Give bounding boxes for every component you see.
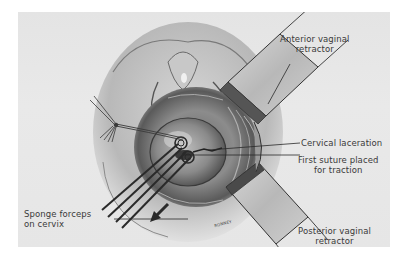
label-first-suture: First suture placed for traction bbox=[298, 155, 379, 175]
label-line: for traction bbox=[298, 165, 379, 175]
label-line: Cervical laceration bbox=[301, 138, 382, 148]
label-sponge-forceps: Sponge forceps on cervix bbox=[24, 209, 91, 229]
label-line: Sponge forceps bbox=[24, 209, 91, 219]
label-line: retractor bbox=[280, 44, 350, 54]
label-line: Anterior vaginal bbox=[280, 34, 350, 44]
label-cervical-laceration: Cervical laceration bbox=[301, 138, 382, 148]
label-line: Posterior vaginal bbox=[298, 226, 371, 236]
label-posterior-vaginal-retractor: Posterior vaginal retractor bbox=[298, 226, 371, 246]
label-anterior-vaginal-retractor: Anterior vaginal retractor bbox=[280, 34, 350, 54]
label-line: First suture placed bbox=[298, 155, 379, 165]
label-line: on cervix bbox=[24, 219, 91, 229]
label-line: retractor bbox=[298, 236, 371, 246]
illustration-panel: Anterior vaginal retractor Cervical lace… bbox=[18, 12, 390, 247]
